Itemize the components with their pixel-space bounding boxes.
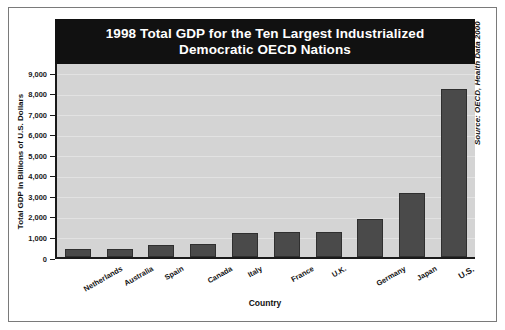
x-axis-tick-labels: NetherlandsAustraliaSpainCanadaItalyFran… (55, 261, 475, 301)
x-axis-tick-label: Italy (246, 263, 265, 279)
bar-series (57, 64, 475, 257)
bar (148, 245, 174, 257)
y-axis-tick-label: 9,000 (28, 70, 50, 79)
y-axis-tick-label: 0 (43, 255, 50, 264)
bar (232, 233, 258, 257)
x-axis-tick: Spain (147, 261, 173, 301)
bar (190, 244, 216, 257)
y-axis-tick-label: 6,000 (28, 131, 50, 140)
x-axis-tick: Japan (399, 261, 425, 301)
bar (274, 232, 300, 257)
source-note: Source: OECD, Health Data 2000 (470, 0, 484, 145)
x-axis-tick: Netherlands (63, 261, 89, 301)
bar (357, 219, 383, 257)
y-axis-tick-label: 8,000 (28, 90, 50, 99)
y-axis-tick-label: 1,000 (28, 234, 50, 243)
x-axis-tick: U.S. (441, 261, 467, 301)
x-axis-tick-label: France (290, 263, 318, 284)
x-axis-tick-label: U.K. (330, 263, 349, 279)
y-axis-tick-label: 3,000 (28, 193, 50, 202)
x-axis-tick-label: Spain (163, 263, 187, 282)
x-axis-tick: U.K. (315, 261, 341, 301)
bar (441, 89, 467, 257)
y-axis-tick-label: 7,000 (28, 111, 50, 120)
y-axis-tick-label: 4,000 (28, 172, 50, 181)
plot-area (55, 64, 475, 259)
x-axis-title: Country (55, 298, 475, 308)
chart-figure: 1998 Total GDP for the Ten Largest Indus… (0, 0, 505, 330)
x-axis-tick: France (273, 261, 299, 301)
chart-title: 1998 Total GDP for the Ten Largest Indus… (106, 26, 424, 58)
x-axis-tick: Australia (105, 261, 131, 301)
y-axis-tick-label: 5,000 (28, 152, 50, 161)
x-axis-tick: Germany (357, 261, 383, 301)
y-axis-ticks: 01,0002,0003,0004,0005,0006,0007,0008,00… (0, 64, 55, 259)
y-axis-tick-label: 2,000 (28, 213, 50, 222)
bar (316, 232, 342, 257)
x-axis-tick-label: Japan (415, 263, 440, 283)
bar (107, 249, 133, 257)
bar (399, 193, 425, 257)
x-axis-tick: Italy (231, 261, 257, 301)
bar (65, 249, 91, 257)
x-axis-tick-label: U.S. (456, 263, 477, 281)
x-axis-tick: Canada (189, 261, 215, 301)
chart-title-banner: 1998 Total GDP for the Ten Largest Indus… (55, 19, 475, 64)
